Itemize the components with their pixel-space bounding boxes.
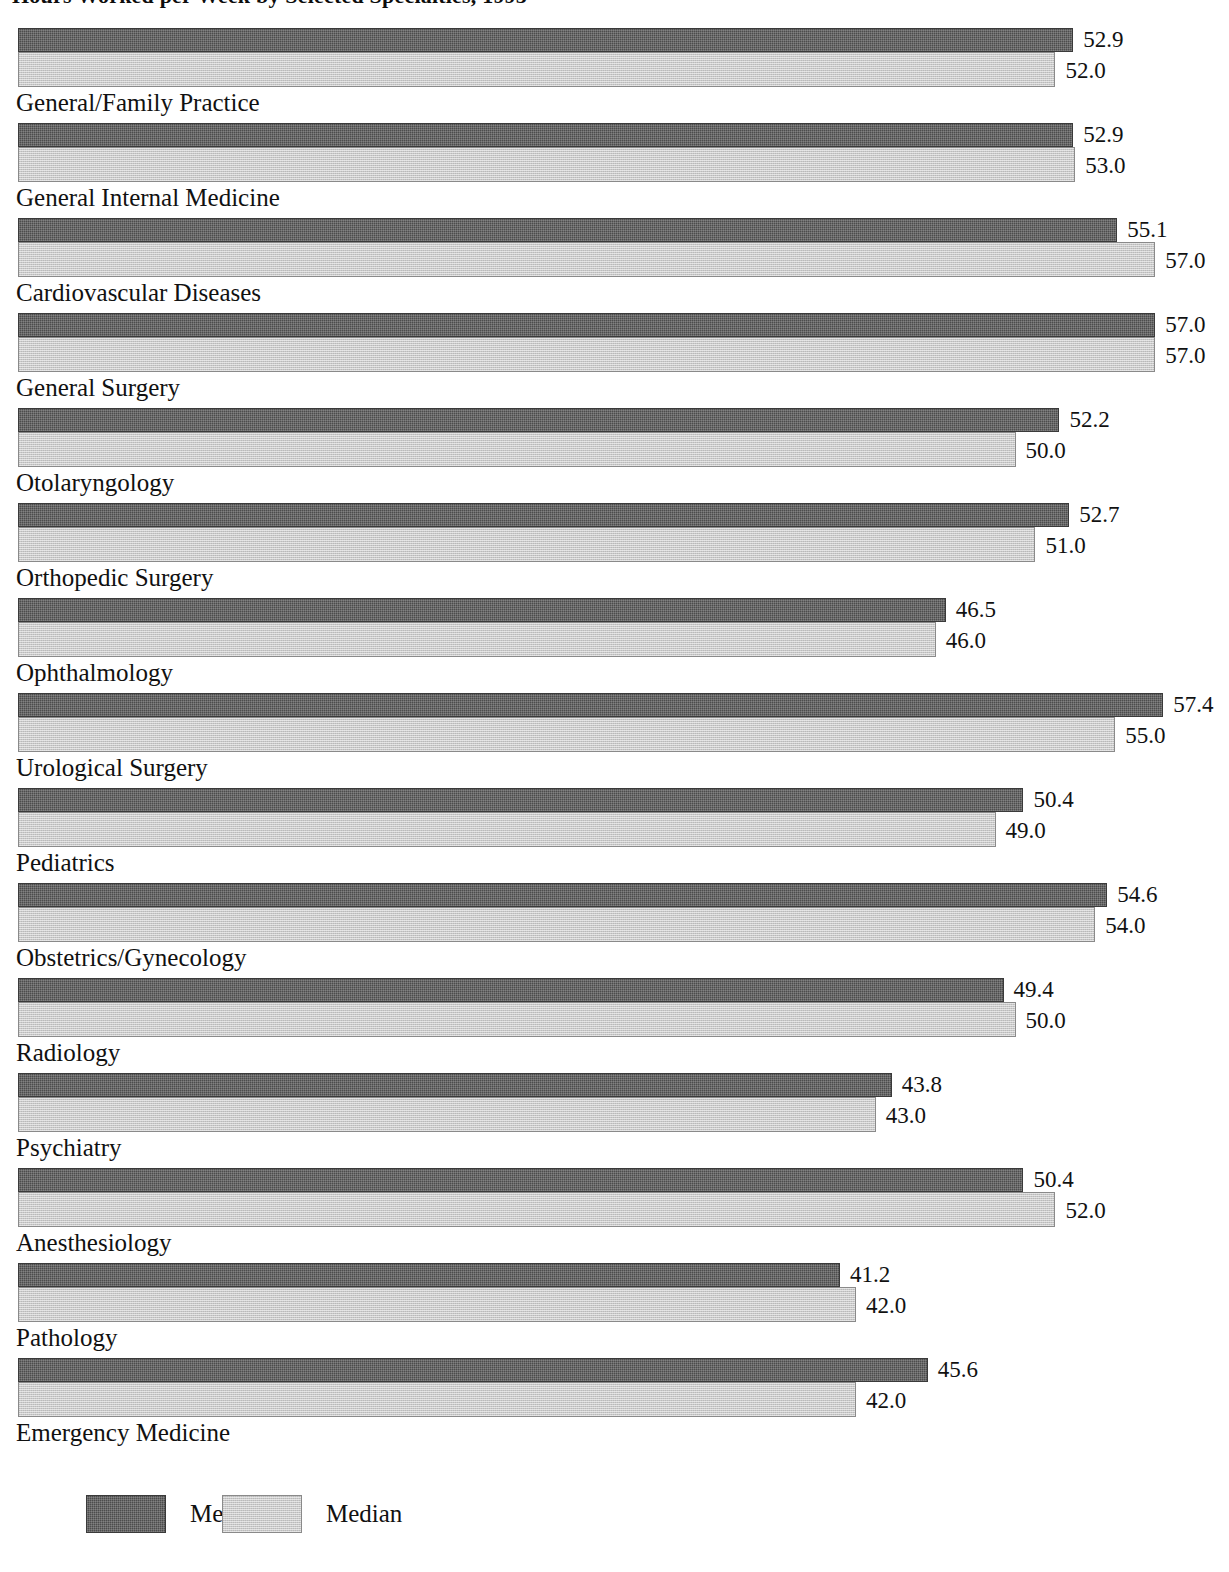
bar-mean [18,218,1117,242]
value-label-mean: 43.8 [902,1073,942,1096]
chart-legend: Mean Median [0,1493,1229,1553]
category-label: Pathology [16,1323,117,1353]
value-label-median: 51.0 [1045,534,1085,557]
bar-mean [18,978,1004,1002]
legend-swatch-median [222,1495,302,1533]
bar-mean [18,1263,840,1287]
value-label-median: 57.0 [1165,344,1205,367]
value-label-mean: 52.2 [1069,408,1109,431]
value-label-median: 52.0 [1065,1199,1105,1222]
value-label-median: 50.0 [1026,439,1066,462]
bar-median [18,1002,1016,1037]
bar-group: 57.455.0Urological Surgery [0,693,1229,788]
value-label-mean: 57.0 [1165,313,1205,336]
value-label-mean: 57.4 [1173,693,1213,716]
bar-mean [18,788,1023,812]
value-label-mean: 54.6 [1117,883,1157,906]
value-label-mean: 45.6 [938,1358,978,1381]
bar-group: 45.642.0Emergency Medicine [0,1358,1229,1453]
value-label-median: 57.0 [1165,249,1205,272]
bar-median [18,1287,856,1322]
bar-median [18,1192,1055,1227]
value-label-mean: 52.7 [1079,503,1119,526]
value-label-median: 42.0 [866,1294,906,1317]
bar-mean [18,1168,1023,1192]
value-label-median: 52.0 [1065,59,1105,82]
bar-chart: Hours Worked per Week by Selected Specia… [0,0,1229,1572]
plot-area: 52.952.0General/Family Practice52.953.0G… [0,0,1229,1452]
legend-label-median: Median [326,1499,402,1529]
bar-median [18,337,1155,372]
bar-group: 50.452.0Anesthesiology [0,1168,1229,1263]
category-label: Pediatrics [16,848,115,878]
bar-group: 52.952.0General/Family Practice [0,28,1229,123]
bar-group: 57.057.0General Surgery [0,313,1229,408]
bar-median [18,622,936,657]
bar-median [18,812,996,847]
value-label-mean: 52.9 [1083,28,1123,51]
bar-mean [18,123,1073,147]
bar-median [18,907,1095,942]
category-label: Urological Surgery [16,753,208,783]
value-label-median: 49.0 [1006,819,1046,842]
bar-mean [18,693,1163,717]
bar-group: 52.751.0Orthopedic Surgery [0,503,1229,598]
category-label: General Internal Medicine [16,183,280,213]
value-label-mean: 49.4 [1014,978,1054,1001]
bar-group: 46.546.0Ophthalmology [0,598,1229,693]
bar-mean [18,408,1059,432]
legend-swatch-mean [86,1495,166,1533]
bar-group: 54.654.0Obstetrics/Gynecology [0,883,1229,978]
category-label: Orthopedic Surgery [16,563,213,593]
value-label-mean: 41.2 [850,1263,890,1286]
value-label-mean: 46.5 [956,598,996,621]
value-label-mean: 55.1 [1127,218,1167,241]
value-label-median: 43.0 [886,1104,926,1127]
category-label: Emergency Medicine [16,1418,230,1448]
value-label-median: 46.0 [946,629,986,652]
category-label: Obstetrics/Gynecology [16,943,247,973]
bar-median [18,717,1115,752]
bar-median [18,1382,856,1417]
bar-group: 55.157.0Cardiovascular Diseases [0,218,1229,313]
bar-median [18,52,1055,87]
bar-median [18,242,1155,277]
bar-median [18,147,1075,182]
value-label-median: 50.0 [1026,1009,1066,1032]
bar-mean [18,1073,892,1097]
value-label-mean: 50.4 [1033,788,1073,811]
category-label: General Surgery [16,373,180,403]
category-label: Cardiovascular Diseases [16,278,261,308]
value-label-median: 53.0 [1085,154,1125,177]
category-label: Ophthalmology [16,658,173,688]
bar-mean [18,1358,928,1382]
bar-median [18,527,1035,562]
bar-mean [18,28,1073,52]
bar-group: 52.250.0Otolaryngology [0,408,1229,503]
category-label: Radiology [16,1038,120,1068]
bar-group: 50.449.0Pediatrics [0,788,1229,883]
bar-mean [18,313,1155,337]
bar-mean [18,883,1107,907]
category-label: Psychiatry [16,1133,122,1163]
bar-median [18,1097,876,1132]
value-label-median: 54.0 [1105,914,1145,937]
value-label-median: 42.0 [866,1389,906,1412]
value-label-mean: 50.4 [1033,1168,1073,1191]
category-label: Anesthesiology [16,1228,172,1258]
value-label-median: 55.0 [1125,724,1165,747]
bar-group: 49.450.0Radiology [0,978,1229,1073]
bar-mean [18,503,1069,527]
category-label: General/Family Practice [16,88,260,118]
bar-median [18,432,1016,467]
bar-group: 43.843.0Psychiatry [0,1073,1229,1168]
bar-group: 52.953.0General Internal Medicine [0,123,1229,218]
bar-group: 41.242.0Pathology [0,1263,1229,1358]
value-label-mean: 52.9 [1083,123,1123,146]
bar-mean [18,598,946,622]
category-label: Otolaryngology [16,468,174,498]
